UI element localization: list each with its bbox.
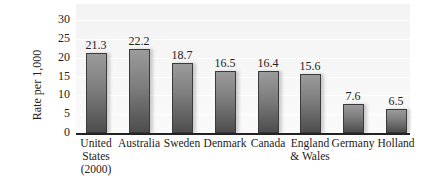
- bar-value-label: 21.3: [76, 39, 116, 51]
- bar: [343, 104, 364, 133]
- bar: [300, 74, 321, 133]
- bar: [129, 49, 150, 133]
- y-axis-title: Rate per 1,000: [30, 35, 46, 135]
- bar: [386, 109, 407, 133]
- x-category-label: Holland: [366, 137, 426, 150]
- y-tick-label: 10: [48, 88, 70, 100]
- bar: [86, 53, 107, 133]
- y-tick-label: 20: [48, 51, 70, 63]
- x-axis-line: [76, 133, 410, 135]
- bar-value-label: 16.5: [205, 57, 245, 69]
- bar: [258, 71, 279, 133]
- y-tick-label: 30: [48, 13, 70, 25]
- bar: [172, 63, 193, 133]
- bar-value-label: 22.2: [119, 35, 159, 47]
- bar-value-label: 7.6: [333, 90, 373, 102]
- bar: [215, 71, 236, 133]
- y-tick-label: 15: [48, 70, 70, 82]
- bar-value-label: 18.7: [162, 49, 202, 61]
- gridline: [76, 77, 410, 78]
- y-tick-label: 5: [48, 107, 70, 119]
- bar-value-label: 16.4: [248, 57, 288, 69]
- bar-value-label: 6.5: [376, 95, 416, 107]
- bar-value-label: 15.6: [290, 60, 330, 72]
- gridline: [76, 20, 410, 21]
- y-tick-label: 25: [48, 32, 70, 44]
